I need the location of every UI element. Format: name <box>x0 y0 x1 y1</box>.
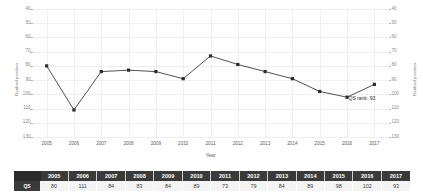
data-point-marker <box>291 77 294 80</box>
y-tick-label: 120 <box>392 120 400 125</box>
y-tick-label: 80 <box>392 63 397 68</box>
x-tick-label: 2016 <box>342 142 352 147</box>
table-corner-cell <box>14 171 40 181</box>
table-header-row: 2005200620072008200920102011201220132014… <box>14 171 410 181</box>
y-tick-mark <box>389 66 392 67</box>
y-tick-label: 50 <box>392 21 397 26</box>
plot-area: 405060708090100110120130 405060708090100… <box>33 9 388 137</box>
qs-rank-annotation: QS rank: 93 <box>349 96 376 101</box>
table-header-cell: 2008 <box>125 171 153 181</box>
x-tick-label: 2014 <box>287 142 297 147</box>
table-cell: 73 <box>211 181 239 191</box>
y-tick-mark <box>389 94 392 95</box>
data-point-marker <box>127 69 130 72</box>
y-tick-label: 130 <box>392 135 400 140</box>
table-header-cell: 2012 <box>239 171 267 181</box>
series-qs <box>33 9 388 137</box>
y-tick-mark <box>389 109 392 110</box>
table-header-cell: 2016 <box>353 171 381 181</box>
x-tick-label: 2012 <box>233 142 243 147</box>
ranking-line-chart: Ranked position Ranked position 40506070… <box>0 0 423 168</box>
table-header-cell: 2015 <box>325 171 353 181</box>
table-cell: 80 <box>40 181 68 191</box>
table-row-header-qs: QS <box>14 181 40 191</box>
y-tick-mark <box>389 137 392 138</box>
y-tick-mark <box>389 37 392 38</box>
y-tick-label: 40 <box>392 7 397 12</box>
table-header-cell: 2005 <box>40 171 68 181</box>
y-tick-mark <box>389 123 392 124</box>
table-header-cell: 2007 <box>97 171 125 181</box>
data-point-marker <box>45 64 48 67</box>
y-tick-label: 100 <box>392 92 400 97</box>
y-tick-mark <box>389 23 392 24</box>
y-tick-label: 70 <box>392 49 397 54</box>
table-cell: 102 <box>353 181 381 191</box>
data-point-marker <box>72 108 75 111</box>
table-cell: 89 <box>182 181 210 191</box>
x-tick-label: 2013 <box>260 142 270 147</box>
x-tick-label: 2010 <box>178 142 188 147</box>
table-cell: 89 <box>296 181 324 191</box>
table-header-cell: 2013 <box>268 171 296 181</box>
y-tick-mark <box>389 52 392 53</box>
ranking-data-table: 2005200620072008200920102011201220132014… <box>14 171 410 191</box>
data-point-marker <box>236 63 239 66</box>
y-tick-mark <box>30 137 33 138</box>
table-header-cell: 2011 <box>211 171 239 181</box>
x-tick-label: 2015 <box>315 142 325 147</box>
y-axis-title-left: Ranked position <box>14 63 19 96</box>
x-axis-title: Year <box>33 152 388 158</box>
data-point-marker <box>209 54 212 57</box>
y-tick-mark <box>389 9 392 10</box>
table-cell: 98 <box>325 181 353 191</box>
table-cell: 83 <box>125 181 153 191</box>
table-cell: 79 <box>239 181 267 191</box>
table-header-cell: 2014 <box>296 171 324 181</box>
table-cell: 84 <box>154 181 182 191</box>
data-point-marker <box>100 70 103 73</box>
data-point-marker <box>373 83 376 86</box>
x-tick-label: 2008 <box>123 142 133 147</box>
data-point-marker <box>264 70 267 73</box>
x-tick-label: 2011 <box>206 142 216 147</box>
x-tick-label: 2017 <box>369 142 379 147</box>
table-header-cell: 2006 <box>68 171 96 181</box>
table-cell: 111 <box>68 181 96 191</box>
y-tick-label: 60 <box>392 35 397 40</box>
y-tick-label: 110 <box>392 106 399 111</box>
table-cell: 84 <box>97 181 125 191</box>
table-header-cell: 2017 <box>381 171 410 181</box>
x-tick-label: 2007 <box>96 142 106 147</box>
table-header-cell: 2009 <box>154 171 182 181</box>
gridline-horizontal <box>33 137 388 138</box>
table-row: QS 8011184838489737984899810293 <box>14 181 410 191</box>
x-tick-label: 2006 <box>69 142 79 147</box>
y-tick-mark <box>389 80 392 81</box>
x-tick-label: 2009 <box>151 142 161 147</box>
table-header-cell: 2010 <box>182 171 210 181</box>
table-cell: 93 <box>381 181 410 191</box>
data-point-marker <box>154 70 157 73</box>
y-axis-title-right: Ranked position <box>412 63 417 96</box>
data-point-marker <box>182 77 185 80</box>
x-tick-label: 2005 <box>42 142 52 147</box>
data-point-marker <box>318 90 321 93</box>
table-cell: 84 <box>268 181 296 191</box>
y-tick-label: 90 <box>392 78 397 83</box>
